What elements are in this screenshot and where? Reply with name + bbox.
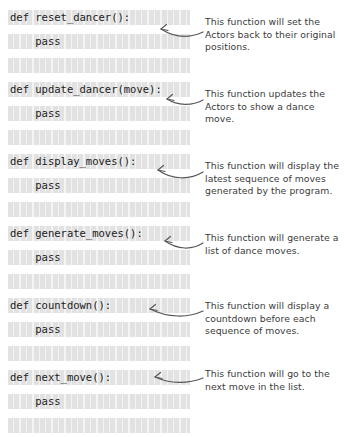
code-line-gap — [8, 121, 190, 130]
code-line-gap — [8, 145, 190, 154]
code-line[interactable]: pass — [8, 394, 190, 409]
code-line[interactable]: pass — [8, 106, 190, 121]
code-cell-texture — [8, 202, 190, 217]
code-line-text: def countdown(): — [8, 298, 190, 313]
code-line-blank[interactable] — [8, 202, 190, 217]
code-line-text: pass — [8, 178, 190, 193]
code-line-blank[interactable] — [8, 58, 190, 73]
annotation-countdown: This function will display a countdown b… — [205, 300, 344, 338]
code-line-text: pass — [8, 34, 190, 49]
code-line[interactable]: def reset_dancer(): — [8, 10, 190, 25]
code-line[interactable]: def countdown(): — [8, 298, 190, 313]
code-line-gap — [8, 241, 190, 250]
annotation-generate-moves: This function will generate a list of da… — [205, 232, 344, 257]
code-line[interactable]: pass — [8, 34, 190, 49]
code-cell-texture — [8, 346, 190, 361]
code-line-gap — [8, 361, 190, 370]
code-line-text: def next_move(): — [8, 370, 190, 385]
code-cell-texture — [8, 418, 190, 433]
code-cell-texture — [8, 130, 190, 145]
code-line-gap — [8, 49, 190, 58]
code-line[interactable]: pass — [8, 178, 190, 193]
annotation-reset-dancer: This function will set the Actors back t… — [205, 16, 344, 54]
code-line-text: def generate_moves(): — [8, 226, 190, 241]
code-line-blank[interactable] — [8, 346, 190, 361]
code-line[interactable]: def display_moves(): — [8, 154, 190, 169]
code-cell-texture — [8, 274, 190, 289]
code-cell-texture — [8, 58, 190, 73]
annotation-next-move: This function will go to the next move i… — [205, 368, 344, 393]
code-line-gap — [8, 289, 190, 298]
annotation-display-moves: This function will display the latest se… — [205, 160, 344, 198]
code-line-text: pass — [8, 106, 190, 121]
code-line-text: def reset_dancer(): — [8, 10, 190, 25]
code-line-text: def update_dancer(move): — [8, 82, 190, 97]
code-line-gap — [8, 169, 190, 178]
code-line[interactable]: pass — [8, 322, 190, 337]
code-line-blank[interactable] — [8, 130, 190, 145]
code-block[interactable]: def reset_dancer(): passdef update_dance… — [8, 10, 190, 406]
code-line-blank[interactable] — [8, 274, 190, 289]
code-line[interactable]: def update_dancer(move): — [8, 82, 190, 97]
annotation-update-dancer: This function updates the Actors to show… — [205, 88, 344, 126]
code-line-blank[interactable] — [8, 418, 190, 433]
code-line-gap — [8, 217, 190, 226]
code-line-gap — [8, 193, 190, 202]
code-line[interactable]: pass — [8, 250, 190, 265]
code-line-gap — [8, 25, 190, 34]
code-line-gap — [8, 409, 190, 418]
code-line-gap — [8, 265, 190, 274]
code-line-gap — [8, 337, 190, 346]
code-line[interactable]: def generate_moves(): — [8, 226, 190, 241]
code-line-gap — [8, 433, 190, 437]
code-line-text: pass — [8, 250, 190, 265]
code-line-text: def display_moves(): — [8, 154, 190, 169]
code-line-text: pass — [8, 394, 190, 409]
code-line-gap — [8, 97, 190, 106]
code-line-text: pass — [8, 322, 190, 337]
code-line[interactable]: def next_move(): — [8, 370, 190, 385]
code-line-gap — [8, 313, 190, 322]
code-line-gap — [8, 385, 190, 394]
code-line-gap — [8, 73, 190, 82]
